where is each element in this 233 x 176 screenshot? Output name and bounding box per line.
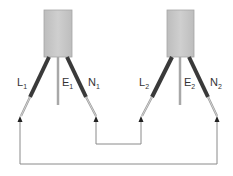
device-2-neutral-wire [189, 57, 208, 97]
device-2-live-wire-highlight [142, 97, 152, 116]
device-1-neutral-wire [67, 57, 86, 97]
arrow-up-icon [18, 116, 23, 122]
device-2-live-wire [152, 57, 172, 97]
device-1: L1 E1 N1 [17, 10, 100, 116]
label-L1: L1 [17, 76, 27, 90]
arrow-up-icon [215, 116, 220, 122]
label-E2: E2 [184, 76, 195, 90]
device-1-neutral-wire-highlight [86, 97, 96, 116]
device-2: L2 E2 N2 [139, 10, 222, 116]
label-E1: E1 [62, 76, 73, 90]
label-N2: N2 [210, 76, 222, 90]
device-2-neutral-wire-highlight [208, 97, 217, 116]
label-L2: L2 [139, 76, 149, 90]
wiring-diagram: L1 E1 N1 L2 E2 N2 [0, 0, 233, 176]
arrow-up-icon [94, 116, 99, 122]
device-1-housing [44, 10, 72, 57]
label-N1: N1 [88, 76, 100, 90]
device-1-live-wire [30, 57, 49, 97]
connection-n1-l2 [94, 116, 144, 144]
device-1-live-wire-highlight [21, 97, 30, 116]
arrow-up-icon [139, 116, 144, 122]
connection-l1-n2 [18, 116, 220, 164]
device-2-housing [167, 10, 194, 57]
